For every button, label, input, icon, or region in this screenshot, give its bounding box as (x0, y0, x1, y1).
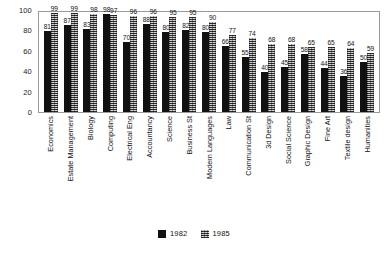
x-axis-label-cell: Fine Art (318, 114, 338, 214)
y-axis-tick: 20 (23, 89, 32, 97)
bar-value-label: 68 (288, 37, 295, 44)
bar-1985-law: 77 (229, 35, 236, 112)
bar-1985-graphic-design: 65 (308, 47, 315, 112)
bar-1985-biology: 98 (90, 14, 97, 112)
bar-value-label: 59 (367, 46, 374, 53)
bar-1982-computing: 98 (103, 14, 110, 112)
bar-1982-social-science: 45 (281, 67, 288, 112)
legend-swatch-icon (201, 230, 209, 238)
y-axis-tick: 80 (23, 28, 32, 36)
x-axis-category-label: Biology (87, 116, 94, 140)
x-axis-label-cell: Biology (81, 114, 101, 214)
x-axis-category-label: Fine Art (324, 116, 331, 141)
bar-group: 8896 (140, 12, 160, 112)
bar-group: 5059 (357, 12, 377, 112)
x-axis-category-label: Electrical Eng (126, 116, 133, 161)
bar-value-label: 96 (130, 9, 137, 16)
bar-group: 8398 (81, 12, 101, 112)
bar-value-label: 44 (321, 61, 328, 68)
bar-value-label: 58 (301, 47, 308, 54)
bar-group: 8095 (160, 12, 180, 112)
x-axis-label-cell: Humanities (357, 114, 377, 214)
x-axis-label-cell: Economics (41, 114, 61, 214)
bar-value-label: 45 (281, 60, 288, 67)
bar-1985-accountancy: 96 (150, 16, 157, 112)
bar-value-label: 81 (44, 24, 51, 31)
bar-value-label: 97 (110, 8, 117, 15)
x-axis-category-label: Social Science (285, 116, 292, 164)
x-axis-label-cell: Communication St (239, 114, 259, 214)
legend-swatch-icon (158, 230, 166, 238)
legend-item-1985: 1985 (201, 230, 231, 238)
bar-group: 4068 (258, 12, 278, 112)
bar-1985-computing: 97 (110, 15, 117, 112)
bar-value-label: 95 (189, 10, 196, 17)
y-axis-tick: 60 (23, 48, 32, 56)
bar-value-label: 65 (328, 40, 335, 47)
x-axis-label-cell: Electrical Eng (120, 114, 140, 214)
bar-value-label: 77 (229, 28, 236, 35)
x-axis-category-label: Economics (47, 116, 54, 152)
y-axis-tick: 0 (28, 109, 32, 117)
x-axis-category-label: Science (166, 116, 173, 142)
bar-chart: 020406080100 819987998398989770968896809… (0, 0, 388, 259)
bar-value-label: 82 (182, 23, 189, 30)
bar-group: 7096 (120, 12, 140, 112)
bar-value-label: 98 (90, 7, 97, 14)
bar-group: 5574 (239, 12, 259, 112)
bar-1985-3d-design: 68 (268, 44, 275, 112)
x-axis-label-cell: 3d Design (258, 114, 278, 214)
bar-value-label: 96 (150, 9, 157, 16)
bar-value-label: 83 (83, 22, 90, 29)
bar-value-label: 50 (360, 55, 367, 62)
x-axis-label-cell: Science (160, 114, 180, 214)
bar-group: 8295 (179, 12, 199, 112)
bar-1982-graphic-design: 58 (301, 54, 308, 112)
bar-1982-fine-art: 44 (321, 68, 328, 112)
x-axis-label-cell: Accountancy (140, 114, 160, 214)
y-axis: 020406080100 (0, 11, 36, 113)
x-axis-label-cell: Graphic Design (298, 114, 318, 214)
bar-value-label: 68 (268, 37, 275, 44)
bar-value-label: 80 (162, 25, 169, 32)
bar-group: 5865 (298, 12, 318, 112)
bar-1985-social-science: 68 (288, 44, 295, 112)
bar-1985-science: 95 (169, 17, 176, 112)
chart-legend: 19821985 (0, 230, 388, 238)
bar-value-label: 70 (123, 35, 130, 42)
bar-1982-communication-st: 55 (242, 57, 249, 112)
bar-1982-textile-design: 36 (340, 76, 347, 112)
bar-1985-business-st: 95 (189, 17, 196, 112)
y-axis-tick: 40 (23, 68, 32, 76)
bar-value-label: 80 (202, 25, 209, 32)
bar-1982-accountancy: 88 (143, 24, 150, 112)
bar-value-label: 95 (169, 10, 176, 17)
bar-1982-biology: 83 (83, 29, 90, 112)
bar-value-label: 65 (308, 40, 315, 47)
bars-layer: 8199879983989897709688968095829580906677… (39, 12, 379, 112)
x-axis-category-label: Communication St (245, 116, 252, 176)
x-axis-label-cell: Business St (179, 114, 199, 214)
bar-value-label: 90 (209, 15, 216, 22)
bar-1985-electrical-eng: 96 (130, 16, 137, 112)
x-axis-category-label: Accountancy (146, 116, 153, 158)
x-axis-category-label: Humanities (364, 116, 371, 153)
bar-1985-humanities: 59 (367, 53, 374, 112)
bar-1985-communication-st: 74 (249, 38, 256, 112)
bar-1982-estate-management: 87 (64, 25, 71, 112)
bar-1985-textile-design: 64 (347, 48, 354, 112)
bar-value-label: 88 (143, 17, 150, 24)
bar-group: 9897 (100, 12, 120, 112)
x-axis-label-cell: Estate Management (61, 114, 81, 214)
bar-1982-science: 80 (162, 32, 169, 112)
bar-value-label: 36 (340, 69, 347, 76)
x-axis-label-cell: Social Science (278, 114, 298, 214)
bar-group: 3664 (337, 12, 357, 112)
bar-1985-fine-art: 65 (328, 47, 335, 112)
bar-group: 4465 (318, 12, 338, 112)
bar-1982-electrical-eng: 70 (123, 42, 130, 112)
bar-1982-economics: 81 (44, 31, 51, 112)
bar-group: 8799 (61, 12, 81, 112)
bar-group: 8090 (199, 12, 219, 112)
x-axis-label-cell: Modern Languages (199, 114, 219, 214)
